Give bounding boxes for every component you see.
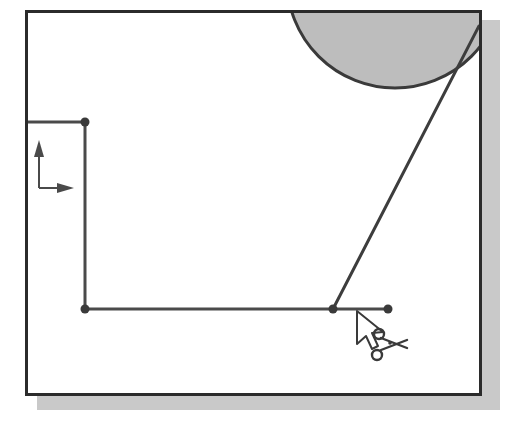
scissors-pivot [388,341,392,345]
cad-illustration-figure [0,0,511,422]
node-top-left[interactable] [81,118,90,127]
node-end-right[interactable] [384,305,393,314]
cad-drawing-canvas [0,0,511,422]
node-corner[interactable] [81,305,90,314]
node-junction[interactable] [329,305,338,314]
